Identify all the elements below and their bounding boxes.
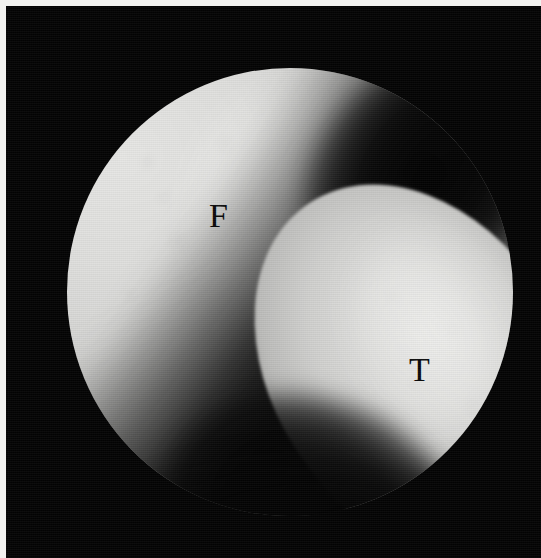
anatomical-label-femur: F	[209, 199, 228, 233]
photograph-black-field: F T	[6, 6, 541, 558]
scope-image-content	[67, 68, 513, 516]
scope-field-of-view	[67, 68, 513, 516]
anatomical-label-tibia: T	[409, 353, 430, 387]
arthroscopic-photograph: F T	[0, 0, 541, 558]
